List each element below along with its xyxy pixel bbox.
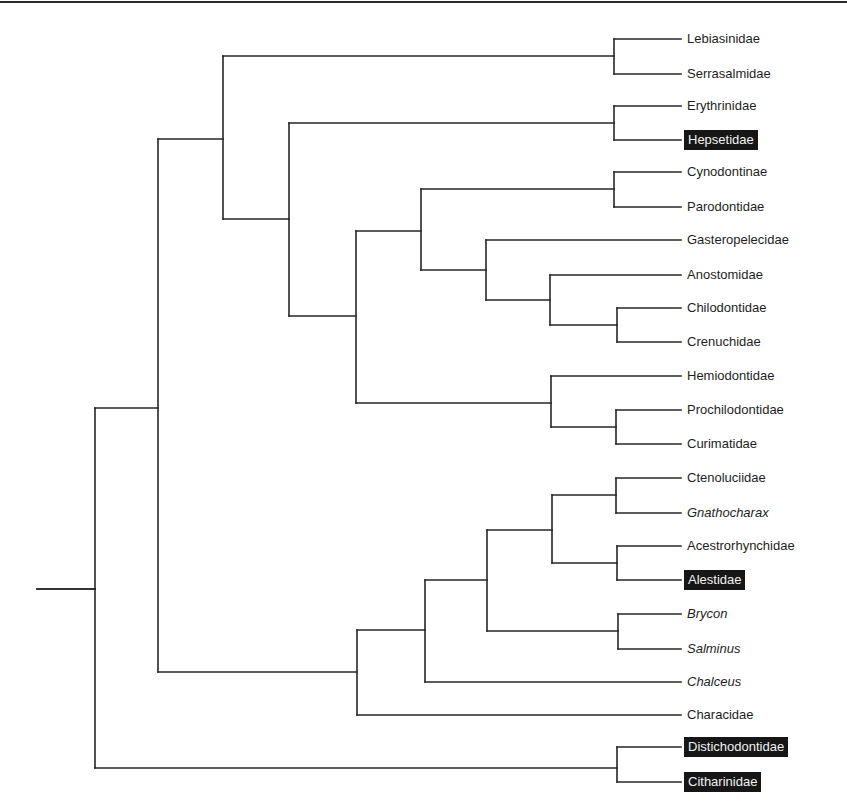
taxon-label-characidae: Characidae [687,705,754,725]
taxon-label-chalceus: Chalceus [687,672,741,692]
taxon-label-citharinidae: Citharinidae [684,772,761,792]
taxon-label-parodontidae: Parodontidae [687,197,764,217]
taxon-label-salminus: Salminus [687,639,740,659]
taxon-label-gnathocharax: Gnathocharax [687,503,769,523]
taxon-label-cynodontinae: Cynodontinae [687,162,767,182]
taxon-label-hemiodontidae: Hemiodontidae [687,366,774,386]
taxon-label-brycon: Brycon [687,604,727,624]
taxon-label-erythrinidae: Erythrinidae [687,96,756,116]
taxon-label-hepsetidae: Hepsetidae [684,130,758,150]
taxon-label-serrasalmidae: Serrasalmidae [687,64,771,84]
taxon-label-ctenoluciidae: Ctenoluciidae [687,468,766,488]
taxon-label-distichodontidae: Distichodontidae [684,737,788,757]
taxon-label-alestidae: Alestidae [684,570,745,590]
taxon-label-anostomidae: Anostomidae [687,265,763,285]
taxon-label-crenuchidae: Crenuchidae [687,332,761,352]
taxon-label-prochilodontidae: Prochilodontidae [687,400,784,420]
taxon-label-curimatidae: Curimatidae [687,434,757,454]
taxon-label-gasteropelecidae: Gasteropelecidae [687,230,789,250]
taxon-label-lebiasinidae: Lebiasinidae [687,29,760,49]
taxon-label-acestrorhynchidae: Acestrorhynchidae [687,536,795,556]
taxon-label-chilodontidae: Chilodontidae [687,298,767,318]
